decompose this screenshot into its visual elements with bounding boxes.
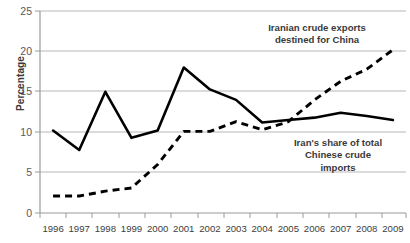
annotation-iranian-crude-exports: Iranian crude exports destined for China xyxy=(232,22,402,47)
annotation-share-line-2: Chinese crude xyxy=(268,149,408,161)
annotation-exports-line-1: Iranian crude exports xyxy=(232,22,402,34)
x-axis-ticks xyxy=(40,213,406,218)
annotation-exports-line-2: destined for China xyxy=(232,34,402,46)
y-axis-ticks xyxy=(35,11,40,213)
annotation-share-line-3: imports xyxy=(268,162,408,174)
x-tick-label-2009: 2009 xyxy=(377,224,409,234)
annotation-iran-share: Iran's share of total Chinese crude impo… xyxy=(268,137,408,174)
chart-container: Percentage 25 20 15 10 5 0 xyxy=(0,0,410,243)
annotation-share-line-1: Iran's share of total xyxy=(268,137,408,149)
series-line-iranian-exports xyxy=(53,50,393,196)
